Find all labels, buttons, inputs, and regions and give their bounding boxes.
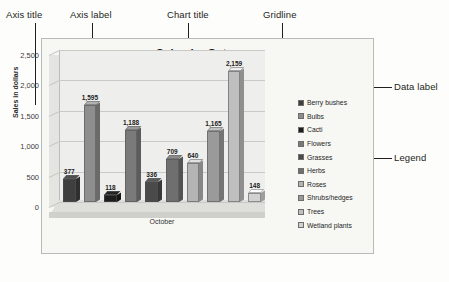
callout-axis-title: Axis title — [6, 9, 42, 20]
data-label: 1,165 — [205, 120, 221, 127]
callout-chart-title: Chart title — [167, 9, 209, 20]
bar[interactable] — [228, 71, 241, 202]
y-axis-tick-label: 1,500 — [11, 111, 39, 120]
bar[interactable] — [104, 195, 117, 202]
legend-label: Berry bushes — [307, 99, 347, 106]
bar-face — [187, 163, 200, 202]
y-axis-title: Sales in dollars — [12, 67, 19, 118]
legend-swatch — [298, 168, 304, 174]
legend-swatch — [298, 127, 304, 133]
legend-swatch — [298, 195, 304, 201]
legend-item[interactable]: Wetland plants — [298, 218, 370, 232]
legend-swatch — [298, 100, 304, 106]
legend-item[interactable]: Roses — [298, 178, 370, 192]
legend-label: Trees — [307, 208, 324, 215]
bar-face — [84, 105, 97, 202]
y-axis-tick-label: 2,000 — [11, 81, 39, 90]
bar-face — [63, 179, 76, 202]
bar-side — [199, 161, 203, 202]
callout-legend: Legend — [394, 152, 426, 163]
bar[interactable] — [145, 182, 158, 202]
data-label: 336 — [146, 171, 157, 178]
data-label: 640 — [187, 152, 198, 159]
bar-side — [137, 127, 141, 202]
gridline — [59, 202, 265, 203]
legend-label: Flowers — [307, 140, 331, 147]
legend-item[interactable]: Trees — [298, 205, 370, 219]
legend-swatch — [298, 181, 304, 187]
legend-item[interactable]: Bulbs — [298, 110, 370, 124]
legend-swatch — [298, 222, 304, 228]
bar-side — [261, 191, 265, 202]
bar-face — [228, 71, 241, 202]
legend-label: Bulbs — [307, 113, 324, 120]
legend-label: Cacti — [307, 126, 323, 133]
bar-face — [166, 159, 179, 202]
legend-item[interactable]: Berry bushes — [298, 96, 370, 110]
bar[interactable] — [125, 130, 138, 202]
legend-swatch — [298, 141, 304, 147]
bar[interactable] — [187, 163, 200, 202]
bar-series: 3771,5951181,1883367096401,1652,159148 — [59, 50, 265, 202]
bar-face — [125, 130, 138, 202]
data-label: 148 — [249, 182, 260, 189]
bar-side — [76, 177, 80, 202]
data-label: 1,595 — [82, 94, 98, 101]
legend-swatch — [298, 209, 304, 215]
callout-axis-title-leader — [35, 23, 36, 105]
legend: Berry bushesBulbsCactiFlowersGrassesHerb… — [298, 96, 370, 232]
legend-label: Roses — [307, 181, 326, 188]
legend-label: Grasses — [307, 154, 332, 161]
y-axis-tick-label: 500 — [11, 172, 39, 181]
legend-item[interactable]: Flowers — [298, 137, 370, 151]
bar[interactable] — [63, 179, 76, 202]
bar-side — [96, 103, 100, 202]
legend-swatch — [298, 154, 304, 160]
legend-item[interactable]: Cacti — [298, 123, 370, 137]
bar-face — [104, 195, 117, 202]
legend-label: Shrubs/hedges — [307, 194, 353, 201]
legend-label: Herbs — [307, 167, 325, 174]
bar-side — [220, 129, 224, 202]
bar-side — [158, 179, 162, 202]
callout-data-label: Data label — [394, 81, 438, 92]
bar-side — [117, 192, 121, 202]
legend-item[interactable]: Grasses — [298, 150, 370, 164]
callout-axis-label: Axis label — [70, 9, 112, 20]
y-axis-tick-label: 0 — [11, 203, 39, 212]
data-label: 2,159 — [226, 60, 242, 67]
legend-swatch — [298, 113, 304, 119]
data-label: 377 — [64, 168, 75, 175]
data-label: 1,188 — [123, 119, 139, 126]
data-label: 709 — [167, 148, 178, 155]
bar-side — [240, 68, 244, 202]
data-label: 118 — [105, 184, 116, 191]
y-axis-tick-label: 2,500 — [11, 51, 39, 60]
y-axis-tick-label: 1,000 — [11, 142, 39, 151]
plot-area: 05001,0001,5002,0002,500 3771,5951181,18… — [41, 50, 271, 235]
bar-face — [207, 131, 220, 202]
bar-face — [248, 193, 261, 202]
bar[interactable] — [84, 105, 97, 202]
bar-side — [179, 156, 183, 202]
legend-label: Wetland plants — [307, 222, 352, 229]
callout-gridline: Gridline — [263, 9, 297, 20]
bar[interactable] — [248, 193, 261, 202]
bar[interactable] — [166, 159, 179, 202]
x-axis-category-label: October — [59, 218, 265, 225]
legend-item[interactable]: Herbs — [298, 164, 370, 178]
legend-item[interactable]: Shrubs/hedges — [298, 191, 370, 205]
bar-face — [145, 182, 158, 202]
bar[interactable] — [207, 131, 220, 202]
